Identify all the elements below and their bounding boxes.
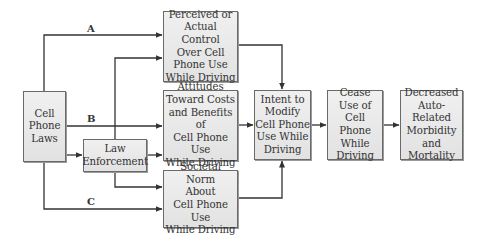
node-cell-phone-laws: Cell Phone Laws — [23, 91, 66, 162]
node-intent-to-modify: Intent to Modify Cell Phone Use While Dr… — [254, 90, 311, 160]
node-decreased-morbidity: Decreased Auto-Related Morbidity and Mor… — [400, 90, 463, 160]
edge-a-laws-to-control — [44, 35, 162, 91]
path-label-a: A — [87, 23, 95, 34]
edge-norm-to-intent — [238, 161, 282, 198]
node-law-enforcement: Law Enforcement — [83, 139, 147, 172]
path-label-b: B — [87, 113, 95, 124]
path-label-c: C — [87, 196, 95, 207]
node-societal-norm: Societal Norm About Cell Phone Use While… — [163, 170, 238, 228]
node-perceived-control: Perceived or Actual Control Over Cell Ph… — [163, 11, 238, 82]
edge-control-to-intent — [238, 45, 282, 89]
edge-enforcement-to-norm — [115, 172, 162, 187]
edge-enforcement-to-control — [115, 58, 162, 139]
node-cease-use: Cease Use of Cell Phone While Driving — [327, 90, 383, 160]
node-attitudes: Attitudes Toward Costs and Benefits of C… — [163, 90, 238, 161]
